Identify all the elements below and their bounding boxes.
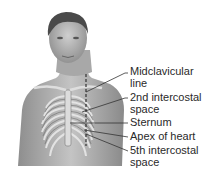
label-midclavicular-line: Midclavicular line bbox=[130, 66, 194, 89]
anatomy-figure: Midclavicular line 2nd intercostal space… bbox=[0, 0, 212, 179]
label-text: 2nd intercostal bbox=[130, 92, 202, 104]
label-2nd-intercostal-space: 2nd intercostal space bbox=[130, 92, 202, 115]
label-5th-intercostal-space: 5th intercostal space bbox=[130, 145, 198, 168]
label-text: Midclavicular bbox=[130, 66, 194, 78]
label-text: line bbox=[130, 78, 194, 90]
label-text: space bbox=[130, 157, 198, 169]
label-text: Apex of heart bbox=[130, 131, 195, 143]
sternum-shape bbox=[65, 90, 71, 146]
label-sternum: Sternum bbox=[130, 117, 172, 129]
label-text: Sternum bbox=[130, 117, 172, 129]
label-text: space bbox=[130, 104, 202, 116]
label-text: 5th intercostal bbox=[130, 145, 198, 157]
label-apex-of-heart: Apex of heart bbox=[130, 131, 195, 143]
